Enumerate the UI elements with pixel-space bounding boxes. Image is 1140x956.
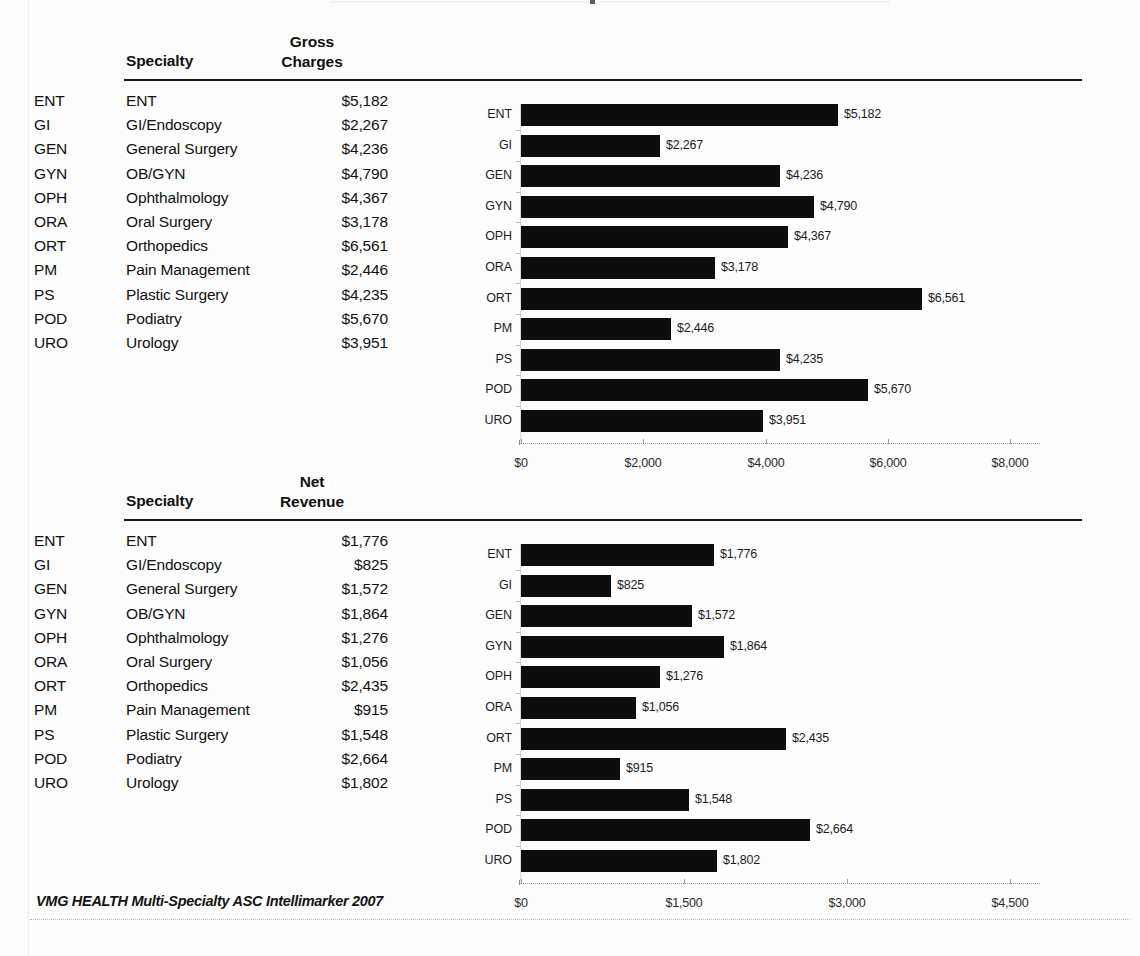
chart-bar-row: ORA$3,178 xyxy=(456,257,1140,279)
bar-category-label: PS xyxy=(456,792,512,806)
chart-bar xyxy=(521,789,689,811)
row-code: URO xyxy=(34,774,68,792)
bar-category-label: GYN xyxy=(456,199,512,213)
bar-value-label: $2,435 xyxy=(792,731,829,745)
row-code: OPH xyxy=(34,189,67,207)
y-axis-tick xyxy=(516,130,521,131)
y-axis-tick xyxy=(516,375,521,376)
row-code: URO xyxy=(34,334,68,352)
x-axis-tick-label: $1,500 xyxy=(639,896,729,910)
chart-bar-row: GYN$1,864 xyxy=(456,636,1140,658)
row-code: ENT xyxy=(34,92,65,110)
table-row: PODPodiatry$5,670 xyxy=(0,310,420,334)
y-axis-tick xyxy=(516,192,521,193)
table-row: GYNOB/GYN$1,864 xyxy=(0,605,420,629)
column-header-specialty: Specialty xyxy=(126,492,193,510)
column-header-metric: Net Revenue xyxy=(236,472,388,512)
x-axis-tick-label: $0 xyxy=(476,896,566,910)
row-specialty-name: General Surgery xyxy=(126,140,237,158)
y-axis-tick xyxy=(516,815,521,816)
chart-bar-row: POD$2,664 xyxy=(456,819,1140,841)
chart-bar xyxy=(521,135,660,157)
chart-bar-row: PS$4,235 xyxy=(456,349,1140,371)
plot-area: ENT$5,182GI$2,267GEN$4,236GYN$4,790OPH$4… xyxy=(456,24,1140,481)
bar-category-label: OPH xyxy=(456,669,512,683)
bar-category-label: ORT xyxy=(456,291,512,305)
bar-category-label: GI xyxy=(456,578,512,592)
chart-bar-row: OPH$1,276 xyxy=(456,666,1140,688)
y-axis-tick xyxy=(516,222,521,223)
bar-category-label: POD xyxy=(456,822,512,836)
bar-category-label: GEN xyxy=(456,168,512,182)
bar-value-label: $4,235 xyxy=(786,352,823,366)
row-value: $6,561 xyxy=(236,237,388,255)
table-row: PSPlastic Surgery$1,548 xyxy=(0,726,420,750)
bar-value-label: $915 xyxy=(626,761,653,775)
table-row: ORTOrthopedics$2,435 xyxy=(0,677,420,701)
chart-bar xyxy=(521,666,660,688)
bar-category-label: ENT xyxy=(456,547,512,561)
chart-bar-row: GEN$4,236 xyxy=(456,165,1140,187)
chart-bar-row: PS$1,548 xyxy=(456,789,1140,811)
row-code: OPH xyxy=(34,629,67,647)
chart-bar xyxy=(521,758,620,780)
row-value: $2,267 xyxy=(236,116,388,134)
y-axis-tick xyxy=(516,601,521,602)
y-axis-tick xyxy=(516,693,521,694)
row-code: PM xyxy=(34,261,57,279)
chart-bar-row: ENT$5,182 xyxy=(456,104,1140,126)
bar-category-label: GI xyxy=(456,138,512,152)
chart-bar xyxy=(521,850,717,872)
row-specialty-name: Pain Management xyxy=(126,261,250,279)
x-axis-tick xyxy=(684,879,685,884)
bar-category-label: URO xyxy=(456,853,512,867)
table-row: ENTENT$1,776 xyxy=(0,532,420,556)
x-axis-tick xyxy=(643,439,644,444)
y-axis-tick xyxy=(516,754,521,755)
bar-value-label: $1,776 xyxy=(720,547,757,561)
row-specialty-name: Urology xyxy=(126,334,178,352)
row-value: $1,864 xyxy=(236,605,388,623)
bar-value-label: $2,267 xyxy=(666,138,703,152)
column-header-metric: Gross Charges xyxy=(236,32,388,72)
bar-value-label: $1,802 xyxy=(723,853,760,867)
footer-rule xyxy=(30,919,1130,921)
chart-bar xyxy=(521,349,780,371)
chart-bar xyxy=(521,819,810,841)
table-row: GENGeneral Surgery$1,572 xyxy=(0,580,420,604)
bar-value-label: $4,367 xyxy=(794,229,831,243)
chart-bar xyxy=(521,226,788,248)
table-row: GIGI/Endoscopy$825 xyxy=(0,556,420,580)
row-code: GEN xyxy=(34,580,67,598)
row-specialty-name: OB/GYN xyxy=(126,605,185,623)
row-value: $2,664 xyxy=(236,750,388,768)
column-header-metric-line2: Revenue xyxy=(236,492,388,512)
row-value: $1,056 xyxy=(236,653,388,671)
table-row: UROUrology$3,951 xyxy=(0,334,420,358)
chart-bar-row: ORT$6,561 xyxy=(456,288,1140,310)
table-body: ENTENT$1,776GIGI/Endoscopy$825GENGeneral… xyxy=(0,532,420,798)
chart-bar xyxy=(521,196,814,218)
table-body: ENTENT$5,182GIGI/Endoscopy$2,267GENGener… xyxy=(0,92,420,358)
y-axis-tick xyxy=(516,570,521,571)
table-row: ORTOrthopedics$6,561 xyxy=(0,237,420,261)
row-value: $3,951 xyxy=(236,334,388,352)
bar-category-label: GYN xyxy=(456,639,512,653)
row-value: $825 xyxy=(236,556,388,574)
y-axis-tick xyxy=(516,785,521,786)
row-code: GI xyxy=(34,116,50,134)
footer-source-note: VMG HEALTH Multi-Specialty ASC Intellima… xyxy=(36,893,383,909)
row-specialty-name: ENT xyxy=(126,92,157,110)
bar-value-label: $6,561 xyxy=(928,291,965,305)
row-code: PS xyxy=(34,286,54,304)
y-axis-tick xyxy=(516,662,521,663)
y-axis-tick xyxy=(516,632,521,633)
row-specialty-name: Ophthalmology xyxy=(126,189,228,207)
row-value: $5,182 xyxy=(236,92,388,110)
x-axis-tick xyxy=(521,879,522,884)
row-code: ORA xyxy=(34,213,67,231)
row-code: GEN xyxy=(34,140,67,158)
x-axis-line xyxy=(520,443,1040,445)
chart-bar xyxy=(521,410,763,432)
column-header-metric-line2: Charges xyxy=(236,52,388,72)
